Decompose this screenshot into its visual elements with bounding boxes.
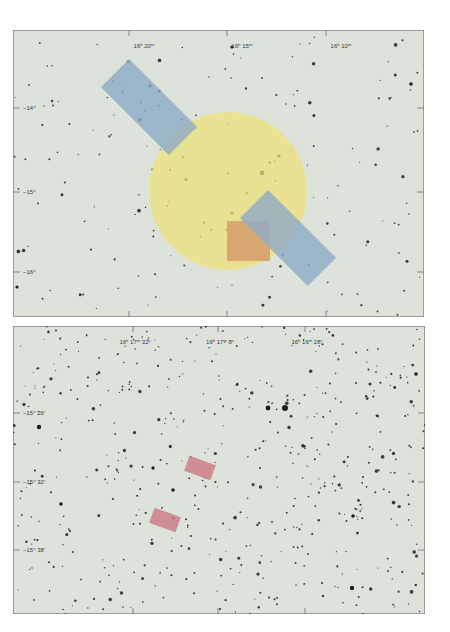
bright-star — [282, 405, 288, 411]
star-chart-panel-wide: 16ʰ 20ᵐ16ʰ 15ᵐ16ʰ 10ᵐ−14°−15°−16° — [13, 30, 424, 317]
bright-star — [59, 502, 63, 506]
star-chart-panel-zoom: 16ʰ 17ᵐ 32ˢ16ʰ 17ᵐ 8ˢ16ʰ 16ᵐ 28ˢ−15° 26′… — [13, 326, 425, 614]
bright-star — [37, 425, 41, 429]
bright-star — [171, 488, 175, 492]
dec-axis-label: −15° 32′ — [23, 479, 46, 485]
ra-axis-label: 16ʰ 10ᵐ — [331, 43, 352, 49]
bright-star — [266, 406, 271, 411]
bright-star — [151, 466, 154, 469]
ra-axis-label: 16ʰ 17ᵐ 32ˢ — [119, 339, 150, 345]
ra-axis-label: 16ʰ 16ᵐ 28ˢ — [291, 339, 322, 345]
sky-plate: 16ʰ 20ᵐ16ʰ 15ᵐ16ʰ 10ᵐ−14°−15°−16° — [13, 30, 424, 317]
bright-star — [15, 285, 18, 288]
bright-star — [414, 372, 418, 376]
dec-axis-label: −16° — [23, 269, 36, 275]
bright-star — [351, 514, 355, 518]
ra-axis-label: 16ʰ 15ᵐ — [232, 43, 253, 49]
ra-axis-label: 16ʰ 17ᵐ 8ˢ — [206, 339, 234, 345]
dec-axis-label: −15° 26′ — [23, 410, 46, 416]
bright-star — [409, 82, 413, 86]
plate-frame — [13, 326, 425, 614]
sky-plate: 16ʰ 17ᵐ 32ˢ16ʰ 17ᵐ 8ˢ16ʰ 16ᵐ 28ˢ−15° 26′… — [13, 326, 425, 614]
dec-axis-label: −15° — [23, 189, 36, 195]
ra-axis-label: 16ʰ 20ᵐ — [134, 43, 155, 49]
dec-axis-label: −15° 38′ — [23, 547, 46, 553]
bright-star — [350, 586, 354, 590]
dec-axis-label: −14° — [23, 105, 36, 111]
